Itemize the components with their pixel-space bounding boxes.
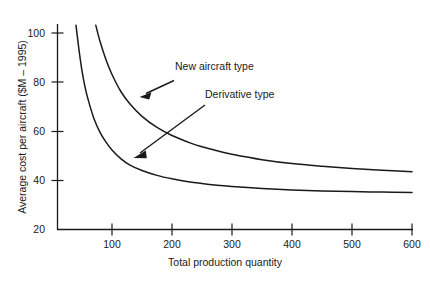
x-tick-label: 200 (163, 238, 181, 250)
y-tick-label: 40 (33, 174, 45, 186)
annotation-leader-derivative-type (134, 105, 206, 158)
annotation-leader-new-aircraft-type (140, 81, 175, 100)
y-axis-tick-labels: 100 80 60 40 20 (27, 27, 45, 236)
y-tick-label: 60 (33, 125, 45, 137)
y-tick-label: 100 (27, 27, 45, 39)
y-tick-label: 80 (33, 76, 45, 88)
y-axis-title: Average cost per aircraft ($M – 1995) (16, 40, 28, 214)
x-axis-title: Total production quantity (168, 256, 283, 268)
chart-svg: 100 80 60 40 20 100 200 300 400 500 600 … (0, 0, 430, 281)
x-axis-tick-labels: 100 200 300 400 500 600 (103, 238, 421, 250)
x-tick-label: 100 (103, 238, 121, 250)
chart-figure: 100 80 60 40 20 100 200 300 400 500 600 … (0, 0, 430, 281)
series-line-derivative-type (76, 25, 412, 192)
x-tick-label: 400 (283, 238, 301, 250)
x-tick-label: 600 (403, 238, 421, 250)
annotation-label-new-aircraft-type: New aircraft type (175, 60, 254, 72)
annotation-label-derivative-type: Derivative type (205, 88, 275, 100)
y-tick-label: 20 (33, 223, 45, 235)
x-tick-label: 300 (223, 238, 241, 250)
x-tick-label: 500 (343, 238, 361, 250)
